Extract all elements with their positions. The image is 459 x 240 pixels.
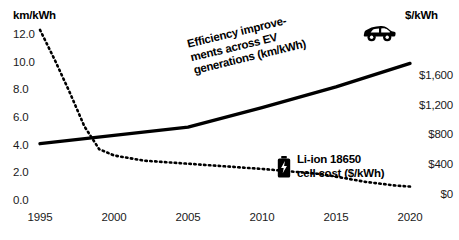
- car-icon-glyph: [362, 22, 396, 44]
- chart-container: km/kWh $/kWh 12.0 10.0 8.0 6.0 4.0 2.0 0…: [0, 0, 459, 240]
- cost-annotation-text: Li-ion 18650 cell cost ($/kWh): [297, 153, 384, 180]
- battery-icon: [277, 156, 291, 178]
- cost-annotation-line-2: cell cost ($/kWh): [297, 167, 384, 181]
- car-icon: [362, 22, 396, 44]
- cost-annotation-line-1: Li-ion 18650: [297, 153, 384, 167]
- battery-icon-glyph: [277, 156, 291, 178]
- cost-annotation: Li-ion 18650 cell cost ($/kWh): [277, 153, 384, 180]
- efficiency-series-line: [40, 63, 410, 143]
